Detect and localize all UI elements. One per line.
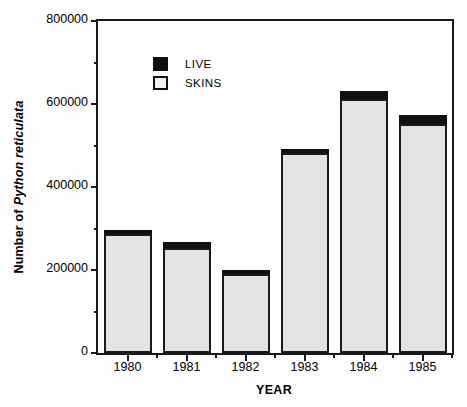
- legend-label: LIVE: [185, 58, 212, 70]
- x-axis-tick-labels: 198019811982198319841985: [96, 360, 454, 378]
- bar-segment-live: [163, 242, 211, 248]
- y-axis-title: Number ofPython reticulata: [12, 62, 26, 312]
- y-axis-tick-label: 800000: [32, 13, 88, 25]
- bar-segment-live: [340, 91, 388, 99]
- bar-segment-skins: [281, 153, 329, 353]
- legend-swatch-icon: [153, 57, 168, 71]
- x-axis-tick-minor: [333, 353, 335, 358]
- x-axis-tick-label: 1982: [216, 360, 276, 374]
- x-axis-tick-minor: [451, 353, 453, 358]
- x-axis-tick-minor: [392, 353, 394, 358]
- chart-legend: LIVESKINS: [153, 54, 222, 92]
- x-axis-tick-label: 1983: [275, 360, 335, 374]
- y-axis-title-container: Number ofPython reticulata: [0, 0, 34, 407]
- y-axis-title-species: Python reticulata: [12, 100, 26, 209]
- bar-chart-figure: Number ofPython reticulata 0200000400000…: [0, 0, 467, 407]
- bar-segment-live: [399, 115, 447, 124]
- bar-1982: [222, 270, 270, 353]
- y-axis-title-plain: Number of: [12, 209, 26, 273]
- bar-1980: [104, 230, 152, 353]
- x-axis-tick-label: 1980: [98, 360, 158, 374]
- x-axis-tick-minor: [274, 353, 276, 358]
- bar-segment-skins: [399, 124, 447, 353]
- x-axis-tick-minor: [215, 353, 217, 358]
- bar-segment-skins: [222, 274, 270, 353]
- y-axis-tick-major: [91, 20, 98, 22]
- x-axis-tick-label: 1981: [157, 360, 217, 374]
- x-axis-tick-label: 1984: [334, 360, 394, 374]
- bar-segment-skins: [340, 99, 388, 353]
- bar-1981: [163, 242, 211, 353]
- bar-segment-live: [104, 230, 152, 234]
- y-axis-tick-labels: 0200000400000600000800000: [30, 0, 88, 407]
- legend-swatch-icon: [153, 76, 168, 90]
- bar-segment-skins: [163, 248, 211, 353]
- bar-segment-skins: [104, 234, 152, 353]
- plot-area: [96, 19, 454, 355]
- x-axis-tick-label: 1985: [393, 360, 453, 374]
- bar-1983: [281, 149, 329, 353]
- x-axis-title: YEAR: [96, 383, 452, 397]
- y-axis-tick-label: 200000: [32, 262, 88, 274]
- bar-1984: [340, 91, 388, 353]
- y-axis-tick-label: 600000: [32, 96, 88, 108]
- bar-segment-live: [222, 270, 270, 274]
- bar-1985: [399, 115, 447, 353]
- y-axis-tick-major: [91, 186, 98, 188]
- legend-item-live: LIVE: [153, 54, 222, 73]
- y-axis-tick-minor: [94, 228, 98, 230]
- y-axis-tick-major: [91, 269, 98, 271]
- y-axis-tick-major: [91, 352, 98, 354]
- y-axis-tick-major: [91, 103, 98, 105]
- y-axis-tick-minor: [94, 145, 98, 147]
- bar-segment-live: [281, 149, 329, 153]
- y-axis-tick-label: 400000: [32, 179, 88, 191]
- y-axis-tick-label: 0: [32, 345, 88, 357]
- y-axis-tick-minor: [94, 62, 98, 64]
- x-axis-tick-minor: [156, 353, 158, 358]
- legend-label: SKINS: [185, 77, 222, 89]
- legend-item-skins: SKINS: [153, 73, 222, 92]
- y-axis-tick-minor: [94, 311, 98, 313]
